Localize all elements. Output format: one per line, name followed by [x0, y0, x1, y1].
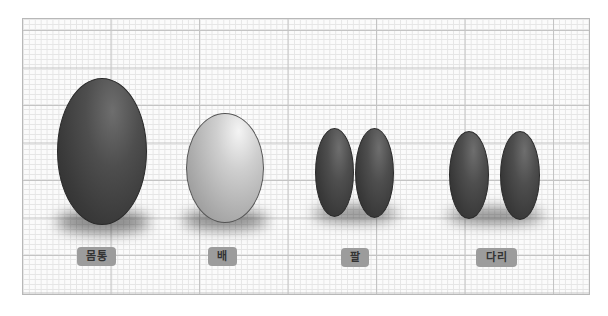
arm-left-oval	[315, 128, 354, 217]
label-belly: 배	[208, 247, 237, 266]
leg-right-oval	[500, 131, 540, 220]
label-arm: 팔	[341, 248, 369, 267]
arm-right-oval	[355, 128, 394, 218]
leg-left-oval	[449, 131, 489, 219]
label-leg: 다리	[476, 248, 517, 267]
label-body: 몸통	[77, 247, 116, 266]
belly-oval	[186, 113, 264, 223]
body-oval	[57, 78, 147, 225]
